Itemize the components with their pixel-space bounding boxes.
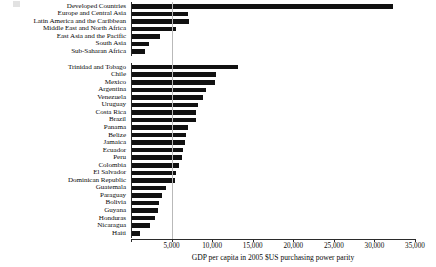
bar — [131, 103, 198, 108]
x-tick-label: 30,000 — [365, 243, 385, 250]
bar — [131, 133, 186, 138]
bar — [131, 27, 176, 32]
bar — [131, 148, 183, 153]
bar — [131, 231, 140, 236]
x-axis-line — [131, 239, 415, 240]
bar — [131, 42, 149, 47]
bar — [131, 88, 206, 93]
bar — [131, 216, 155, 221]
category-label: Nicaragua — [0, 222, 129, 229]
x-tick-label: 10,000 — [202, 243, 222, 250]
bar — [131, 80, 215, 85]
bar — [131, 186, 166, 191]
bar — [131, 140, 185, 145]
bar — [131, 65, 238, 70]
bar — [131, 193, 162, 198]
plot-area: Developed CountriesEurope and Central As… — [0, 0, 436, 240]
bar — [131, 118, 196, 123]
x-tick-label: 35,000 — [405, 243, 425, 250]
bar — [131, 155, 182, 160]
category-label: Haiti — [0, 230, 129, 237]
bar — [131, 34, 160, 39]
bar — [131, 171, 176, 176]
category-axis-spine — [131, 2, 132, 56]
bar — [131, 178, 175, 183]
bar — [131, 4, 393, 9]
gridline-5000 — [172, 2, 173, 240]
bar — [131, 72, 216, 77]
chart-figure: Developed CountriesEurope and Central As… — [0, 0, 436, 267]
x-axis-title: GDP per capita in 2005 $US purchasing po… — [131, 254, 415, 262]
category-label: Panama — [0, 124, 129, 131]
bar — [131, 201, 159, 206]
bar — [131, 95, 203, 100]
category-label: Ecuador — [0, 147, 129, 154]
bar — [131, 223, 150, 228]
category-label: Trinidad and Tobago — [0, 64, 129, 71]
bar — [131, 12, 188, 17]
x-tick-label: 20,000 — [283, 243, 303, 250]
bar — [131, 110, 196, 115]
bar — [131, 49, 145, 54]
x-tick — [131, 239, 132, 242]
x-axis: GDP per capita in 2005 $US purchasing po… — [0, 239, 436, 267]
x-tick-label: 5,000 — [163, 243, 179, 250]
category-label: Sub-Saharan Africa — [0, 48, 129, 55]
x-tick-label: 15,000 — [243, 243, 263, 250]
category-axis-spine — [131, 63, 132, 238]
bar — [131, 208, 158, 213]
bar — [131, 125, 188, 130]
bar — [131, 19, 189, 24]
x-tick-label: 25,000 — [324, 243, 344, 250]
